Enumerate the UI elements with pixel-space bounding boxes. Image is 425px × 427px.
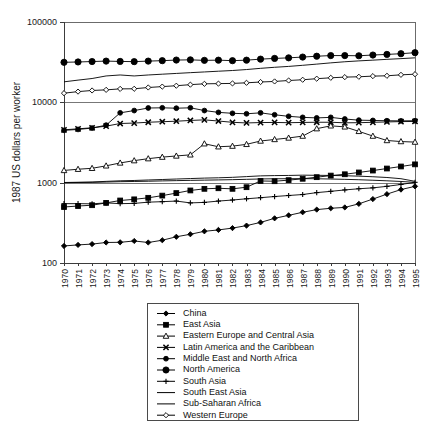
x-tick-label-1981: 1981 (214, 269, 224, 288)
y-tick-label-100000: 100000 (27, 17, 57, 27)
x-tick-label-1986: 1986 (285, 269, 295, 288)
x-tick-label-1987: 1987 (299, 269, 309, 288)
data-point (90, 126, 95, 131)
chart-legend: ChinaEast AsiaEastern Europe and Central… (148, 304, 359, 421)
x-tick-label-1977: 1977 (158, 269, 168, 288)
data-point (356, 53, 362, 59)
chart-figure: 100100010000100000 197019711972197319741… (0, 0, 425, 427)
data-point (230, 111, 235, 116)
data-point (202, 186, 207, 191)
data-point (89, 58, 95, 64)
data-point (117, 58, 123, 64)
x-tick-label-1989: 1989 (327, 269, 337, 288)
data-point (412, 50, 418, 56)
data-point (163, 367, 169, 373)
x-tick-label-1983: 1983 (243, 269, 253, 288)
data-point (201, 57, 207, 63)
data-point (174, 191, 179, 196)
legend-label: Eastern Europe and Central Asia (183, 330, 314, 340)
data-point (413, 162, 418, 167)
data-point (187, 57, 193, 63)
data-point (370, 118, 375, 123)
y-tick-label-1000: 1000 (37, 178, 57, 188)
data-point (145, 58, 151, 64)
data-point (118, 110, 123, 115)
y-axis-label: 1987 US dollars per worker (11, 81, 22, 203)
data-point (399, 118, 404, 123)
x-tick-label-1978: 1978 (172, 269, 182, 288)
data-point (160, 193, 165, 198)
data-point (399, 164, 404, 169)
y-tick-label-100: 100 (42, 258, 57, 268)
data-point (370, 168, 375, 173)
data-point (243, 57, 249, 63)
data-point (202, 108, 207, 113)
data-point (244, 111, 249, 116)
data-point (164, 356, 169, 361)
data-point (398, 51, 404, 57)
data-point (229, 58, 235, 64)
data-point (356, 170, 361, 175)
x-tick-label-1991: 1991 (355, 269, 365, 288)
data-point (215, 57, 221, 63)
data-point (272, 112, 277, 117)
data-point (413, 118, 418, 123)
data-point (146, 195, 151, 200)
y-tick-label-10000: 10000 (32, 97, 57, 107)
data-point (216, 186, 221, 191)
x-tick-label-1994: 1994 (397, 269, 407, 288)
x-tick-label-1970: 1970 (60, 269, 70, 288)
data-point (328, 115, 333, 120)
data-point (384, 51, 390, 57)
data-point (104, 123, 109, 128)
data-point (286, 114, 291, 119)
data-point (103, 58, 109, 64)
data-point (342, 52, 348, 58)
data-point (62, 128, 67, 133)
x-tick-label-1992: 1992 (369, 269, 379, 288)
data-point (300, 115, 305, 120)
data-point (286, 55, 292, 61)
x-tick-label-1990: 1990 (341, 269, 351, 288)
x-tick-label-1985: 1985 (271, 269, 281, 288)
x-tick-label-1979: 1979 (186, 269, 196, 288)
data-point (314, 53, 320, 59)
data-point (342, 117, 347, 122)
data-point (75, 59, 81, 65)
data-point (160, 105, 165, 110)
legend-label: China (183, 308, 207, 318)
data-point (173, 57, 179, 63)
x-tick-label-1976: 1976 (144, 269, 154, 288)
data-point (230, 186, 235, 191)
data-point (258, 110, 263, 115)
data-point (174, 106, 179, 111)
legend-label: South Asia (183, 376, 226, 386)
legend-label: South East Asia (183, 387, 247, 397)
legend-label: East Asia (183, 319, 221, 329)
data-point (131, 59, 137, 65)
data-point (159, 58, 165, 64)
x-tick-label-1973: 1973 (102, 269, 112, 288)
x-tick-label-1993: 1993 (383, 269, 393, 288)
x-tick-label-1984: 1984 (257, 269, 267, 288)
data-point (314, 116, 319, 121)
x-tick-label-1972: 1972 (88, 269, 98, 288)
x-tick-label-1982: 1982 (228, 269, 238, 288)
data-point (61, 59, 67, 65)
x-tick-label-1995: 1995 (411, 269, 421, 288)
x-tick-label-1980: 1980 (200, 269, 210, 288)
data-point (356, 118, 361, 123)
data-point (244, 185, 249, 190)
legend-label: Latin America and the Caribbean (183, 342, 314, 352)
legend-label: Middle East and North Africa (183, 353, 297, 363)
data-point (272, 179, 277, 184)
data-point (146, 106, 151, 111)
data-point (300, 54, 306, 60)
x-tick-label-1974: 1974 (116, 269, 126, 288)
x-tick-label-1975: 1975 (130, 269, 140, 288)
x-tick-label-1971: 1971 (74, 269, 84, 288)
data-point (216, 110, 221, 115)
data-point (188, 105, 193, 110)
legend-label: North America (183, 364, 240, 374)
data-point (328, 52, 334, 58)
